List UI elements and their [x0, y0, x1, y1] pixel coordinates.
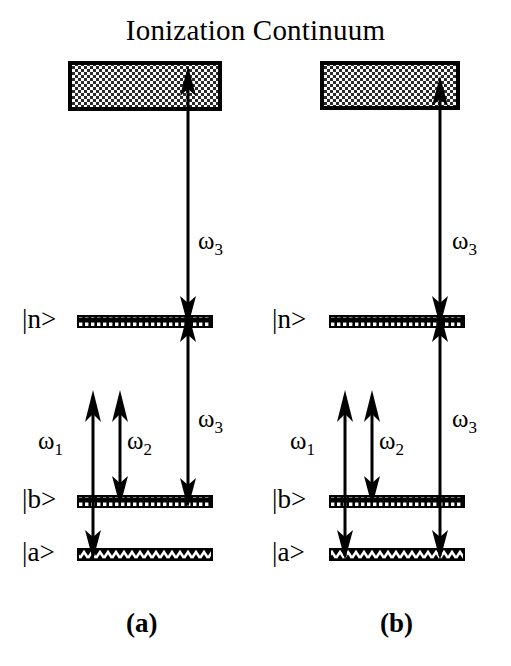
omega-subscript: 2	[395, 440, 404, 459]
omega-subscript: 3	[214, 240, 223, 259]
omega-symbol: ω	[290, 427, 306, 454]
omega3-lower-label-a: ω3	[198, 406, 223, 436]
omega-symbol: ω	[198, 405, 214, 432]
arrow-omega2-b	[364, 390, 380, 506]
omega-subscript: 1	[54, 440, 63, 459]
omega-subscript: 2	[143, 440, 152, 459]
omega1-label-b: ω1	[290, 428, 315, 458]
arrow-omega1-b	[337, 390, 353, 560]
level-bar-n-b	[330, 316, 464, 327]
arrow-omega3-lower-a	[180, 312, 196, 508]
panel-b-group	[322, 63, 464, 560]
omega-subscript: 3	[468, 418, 477, 437]
level-bar-n-a	[78, 316, 212, 327]
level-label-b-a: |b>	[22, 486, 56, 513]
level-label-n-a: |n>	[22, 306, 56, 333]
omega-symbol: ω	[452, 405, 468, 432]
level-label-b-b: |b>	[272, 486, 306, 513]
arrow-omega1-a	[85, 390, 101, 560]
level-label-a-b: |a>	[272, 539, 305, 566]
level-label-a-a: |a>	[22, 539, 55, 566]
level-bar-b-a	[78, 496, 212, 507]
figure-canvas: Ionization Continuum	[0, 0, 511, 666]
continuum-box-a	[70, 63, 220, 109]
panel-caption-b: (b)	[380, 608, 413, 639]
arrow-omega2-a	[112, 390, 128, 506]
arrow-omega3-upper-b	[432, 76, 448, 326]
level-label-n-b: |n>	[272, 306, 306, 333]
diagram-vector-layer	[0, 0, 511, 666]
omega-symbol: ω	[38, 427, 54, 454]
omega-subscript: 3	[468, 240, 477, 259]
omega1-label-a: ω1	[38, 428, 63, 458]
omega-symbol: ω	[452, 227, 468, 254]
level-bar-a-b	[330, 549, 464, 560]
omega-symbol: ω	[127, 427, 143, 454]
omega2-label-b: ω2	[379, 428, 404, 458]
omega-subscript: 1	[306, 440, 315, 459]
level-bar-b-b	[330, 496, 464, 507]
arrow-omega3-lower-b	[432, 312, 448, 560]
omega3-upper-label-a: ω3	[198, 228, 223, 258]
omega-subscript: 3	[214, 418, 223, 437]
omega-symbol: ω	[198, 227, 214, 254]
omega2-label-a: ω2	[127, 428, 152, 458]
omega3-lower-label-b: ω3	[452, 406, 477, 436]
omega-symbol: ω	[379, 427, 395, 454]
panel-a-group	[70, 63, 220, 560]
panel-caption-a: (a)	[126, 608, 157, 639]
level-bar-a-a	[78, 549, 212, 560]
omega3-upper-label-b: ω3	[452, 228, 477, 258]
